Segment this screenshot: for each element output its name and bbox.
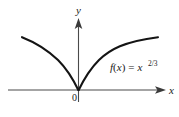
curve-left-branch bbox=[22, 37, 78, 90]
graph-canvas: y x 0 f(x)=x 2/3 bbox=[0, 0, 179, 117]
function-close-paren: ) bbox=[122, 61, 126, 74]
function-base: x bbox=[137, 61, 143, 73]
function-label: f(x)=x 2/3 bbox=[110, 59, 158, 75]
x-axis-label: x bbox=[168, 84, 174, 96]
function-label-main: f(x)=x bbox=[110, 61, 143, 74]
function-exponent: 2/3 bbox=[148, 59, 158, 68]
function-equals: = bbox=[128, 61, 134, 73]
origin-label: 0 bbox=[72, 92, 77, 103]
function-graph-figure: y x 0 f(x)=x 2/3 bbox=[0, 0, 179, 117]
y-axis-label: y bbox=[75, 4, 81, 16]
